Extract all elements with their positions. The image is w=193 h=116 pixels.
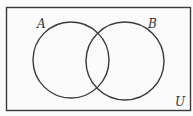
venn-diagram: A B U — [0, 0, 193, 116]
set-b-label: B — [147, 17, 157, 31]
universe-rectangle — [7, 8, 191, 111]
set-a-label: A — [36, 17, 46, 31]
universe-label: U — [175, 95, 186, 109]
set-b-circle — [86, 22, 164, 100]
